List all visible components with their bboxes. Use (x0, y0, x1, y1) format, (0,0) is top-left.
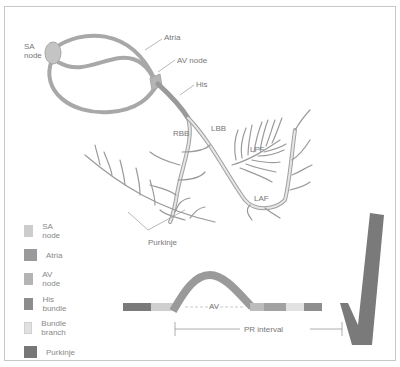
label-atria: Atria (164, 33, 180, 42)
label-his: His (196, 80, 208, 89)
segment-av-node (250, 303, 264, 311)
segment-sa-node (123, 303, 151, 311)
legend-label: SA node (42, 222, 64, 240)
legend-item-atria: Atria (24, 249, 62, 261)
label-lbb: LBB (211, 124, 226, 133)
segment-bundle-branch (286, 303, 304, 311)
legend-label: Purkinje (46, 348, 75, 357)
purkinje-fibers-right (85, 145, 215, 222)
his-bundle-shape (158, 84, 188, 118)
legend-label: Bundle branch (41, 319, 71, 337)
label-purkinje: Purkinje (148, 238, 177, 247)
atrial-pathways (49, 36, 155, 113)
legend-item-sa-node: SA node (24, 225, 64, 237)
legend-item-bundle-branch: Bundle branch (24, 322, 71, 334)
label-sa-node: SA node (24, 42, 42, 60)
legend-swatch (24, 273, 33, 285)
label-av: AV (209, 302, 219, 311)
legend-label: AV node (42, 270, 64, 288)
legend-item-av-node: AV node (24, 273, 64, 285)
legend-swatch (24, 322, 32, 334)
label-laf: LAF (254, 194, 269, 203)
legend-swatch (24, 225, 33, 237)
qrs-complex (322, 213, 384, 345)
label-lpf: LPF (250, 145, 265, 154)
legend-swatch (24, 298, 33, 310)
label-pr-interval: PR interval (244, 325, 283, 334)
legend-item-his-bundle: His bundle (24, 298, 70, 310)
legend-item-purkinje: Purkinje (24, 346, 75, 358)
sa-node-shape (45, 42, 61, 64)
legend-swatch (24, 249, 37, 261)
purkinje-fibers-left (232, 110, 312, 220)
label-rbb: RBB (173, 129, 189, 138)
segment-his-bundle (264, 303, 286, 311)
label-av-node: AV node (177, 56, 207, 65)
legend-swatch (24, 346, 37, 358)
segment-purkinje (304, 303, 322, 311)
legend-label: Atria (46, 251, 62, 260)
legend-label: His bundle (42, 295, 70, 313)
